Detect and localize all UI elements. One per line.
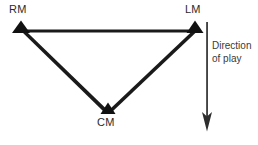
node-label-rm: RM — [9, 3, 27, 15]
position-markers — [12, 21, 204, 115]
marker-rm-triangle-icon — [12, 21, 30, 34]
node-label-lm: LM — [185, 3, 201, 15]
marker-lm-triangle-icon — [187, 21, 204, 34]
connection-rm-to-lm — [27, 29, 194, 32]
diagram-canvas — [0, 0, 258, 145]
connection-rm-to-cm — [21, 29, 108, 112]
direction-of-play-arrow-icon — [202, 22, 212, 132]
formation-diagram: RM LM CM Direction of play — [0, 0, 258, 145]
direction-of-play-caption: Direction of play — [212, 40, 258, 65]
connection-lm-to-cm — [110, 29, 198, 112]
node-label-cm: CM — [97, 116, 115, 128]
connection-lines — [21, 29, 198, 112]
